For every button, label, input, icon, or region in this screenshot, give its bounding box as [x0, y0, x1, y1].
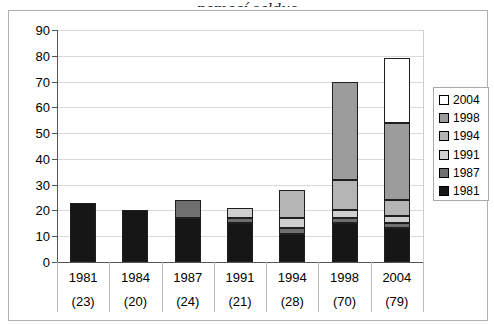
x-axis-count-label: (70)	[318, 294, 370, 309]
legend-entry-1998: 1998	[439, 109, 480, 127]
y-gridline	[57, 133, 423, 134]
bar-segment-1981-1984	[122, 210, 148, 262]
legend-swatch-icon	[439, 186, 449, 196]
y-axis-label: 90	[12, 23, 50, 38]
y-gridline	[57, 82, 423, 83]
legend-entry-1987: 1987	[439, 164, 480, 182]
legend-swatch-icon	[439, 113, 449, 123]
y-axis-line	[57, 30, 58, 262]
legend-swatch-icon	[439, 168, 449, 178]
bar-segment-1991-1991	[227, 208, 253, 218]
legend-label: 1991	[453, 148, 480, 162]
legend-label: 1994	[453, 129, 480, 143]
legend-swatch-icon	[439, 95, 449, 105]
y-gridline	[57, 107, 423, 108]
y-gridline	[57, 56, 423, 57]
bar-segment-1991-1998	[332, 210, 358, 218]
bar-segment-1981-1994	[279, 234, 305, 262]
bar-segment-1994-2004	[384, 200, 410, 215]
chart-legend: 200419981994199119871981	[433, 87, 489, 201]
legend-swatch-icon	[439, 131, 449, 141]
x-axis-count-label: (79)	[371, 294, 423, 309]
x-axis-count-label: (21)	[214, 294, 266, 309]
y-axis-label: 50	[12, 126, 50, 141]
legend-entry-1981: 1981	[439, 182, 480, 200]
y-axis-label: 70	[12, 75, 50, 90]
y-axis-label: 20	[12, 203, 50, 218]
x-axis-count-label: (20)	[109, 294, 161, 309]
legend-swatch-icon	[439, 150, 449, 160]
chart-canvas: 01020304050607080901981(23)1984(20)1987(…	[0, 0, 494, 328]
x-axis-label: 1991	[214, 270, 266, 285]
bar-segment-1987-2004	[384, 223, 410, 228]
bar-segment-1998-2004	[384, 123, 410, 200]
y-axis-label: 40	[12, 152, 50, 167]
legend-label: 2004	[453, 93, 480, 107]
y-axis-label: 60	[12, 100, 50, 115]
legend-entry-2004: 2004	[439, 91, 480, 109]
bar-segment-1987-1998	[332, 218, 358, 223]
bar-segment-1991-1994	[279, 218, 305, 228]
bar-segment-2004-2004	[384, 58, 410, 122]
x-axis-count-label: (28)	[266, 294, 318, 309]
bar-segment-1991-2004	[384, 216, 410, 224]
y-gridline	[57, 30, 423, 31]
y-axis-label: 80	[12, 49, 50, 64]
legend-label: 1998	[453, 111, 480, 125]
bar-segment-1987-1987	[175, 200, 201, 218]
plot-right-border	[423, 30, 424, 262]
y-axis-label: 30	[12, 178, 50, 193]
x-axis-label: 1987	[162, 270, 214, 285]
bar-segment-1994-1994	[279, 190, 305, 218]
y-gridline	[57, 159, 423, 160]
x-axis-label: 1984	[109, 270, 161, 285]
x-axis-label: 1998	[318, 270, 370, 285]
legend-entry-1991: 1991	[439, 146, 480, 164]
x-axis-separator	[423, 262, 424, 312]
x-axis-label: 2004	[371, 270, 423, 285]
legend-label: 1981	[453, 184, 480, 198]
bar-segment-1998-1998	[332, 82, 358, 180]
x-axis-label: 1981	[57, 270, 109, 285]
bar-segment-1987-1991	[227, 218, 253, 223]
y-gridline	[57, 185, 423, 186]
bar-segment-1994-1998	[332, 180, 358, 211]
x-axis-count-label: (24)	[162, 294, 214, 309]
y-axis-label: 0	[12, 255, 50, 270]
x-axis-count-label: (23)	[57, 294, 109, 309]
x-axis-line	[57, 262, 423, 263]
bar-segment-1981-1998	[332, 223, 358, 262]
bar-segment-1981-1981	[70, 203, 96, 262]
bar-segment-1987-1994	[279, 228, 305, 233]
x-axis-label: 1994	[266, 270, 318, 285]
legend-label: 1987	[453, 166, 480, 180]
bar-segment-1981-1987	[175, 218, 201, 262]
bar-segment-1981-1991	[227, 223, 253, 262]
bar-segment-1981-2004	[384, 228, 410, 262]
y-axis-label: 10	[12, 229, 50, 244]
legend-entry-1994: 1994	[439, 127, 480, 145]
